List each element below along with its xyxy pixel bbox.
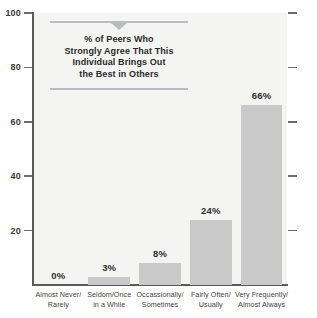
bar-value-label: 24% xyxy=(185,205,236,216)
annotation-text-line: Individual Brings Out xyxy=(50,57,188,69)
bar xyxy=(139,263,181,285)
annotation-text: % of Peers WhoStrongly Agree That ThisIn… xyxy=(50,23,188,88)
bar-value-label: 3% xyxy=(84,262,135,273)
y-axis-tick-right xyxy=(288,121,297,123)
annotation-callout: % of Peers WhoStrongly Agree That ThisIn… xyxy=(50,21,188,90)
bar xyxy=(190,220,232,285)
x-axis-category-label-line: Almost Always xyxy=(230,300,293,310)
annotation-pointer-triangle-icon xyxy=(111,23,127,30)
annotation-text-line: the Best in Others xyxy=(50,69,188,81)
x-axis-category-label: Very Frequently/Almost Always xyxy=(230,290,293,309)
y-axis-tick-left xyxy=(24,67,32,69)
y-axis-tick-label: 60 xyxy=(0,117,21,127)
y-axis-tick-left xyxy=(24,230,32,232)
annotation-text-line: Strongly Agree That This xyxy=(50,46,188,58)
bar-value-label: 66% xyxy=(236,90,287,101)
bar-value-label: 8% xyxy=(135,248,186,259)
y-axis-tick-label: 100 xyxy=(0,8,21,18)
bar-chart: 20406080100 0%3%8%24%66% Almost Never/Ra… xyxy=(0,0,317,318)
annotation-bottom-rule xyxy=(50,88,188,90)
y-axis-tick-left xyxy=(24,175,32,177)
y-axis-tick-label: 80 xyxy=(0,62,21,72)
annotation-text-line: % of Peers Who xyxy=(50,34,188,46)
y-axis-tick-left xyxy=(24,121,32,123)
y-axis-tick-label: 40 xyxy=(0,171,21,181)
bar xyxy=(241,105,283,285)
y-axis-tick-right xyxy=(288,175,297,177)
bar-slot: 24% xyxy=(185,13,236,285)
x-axis-category-label-line: Very Frequently/ xyxy=(230,290,293,300)
bar xyxy=(88,277,130,285)
bar-value-label: 0% xyxy=(33,270,84,281)
y-axis-tick-right xyxy=(288,12,297,14)
y-axis-tick-left xyxy=(24,12,32,14)
bar-slot: 66% xyxy=(236,13,287,285)
y-axis-tick-label: 20 xyxy=(0,226,21,236)
y-axis-tick-right xyxy=(288,230,297,232)
y-axis-tick-right xyxy=(288,67,297,69)
